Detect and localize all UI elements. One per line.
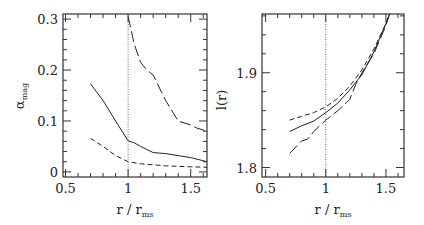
angular-momentum-plot-frame xyxy=(262,14,404,177)
alpha-mag-panel: 0.511.500.10.20.3 r / rms αmag xyxy=(12,12,207,219)
x-tick-label: 0.5 xyxy=(255,181,276,196)
alpha-mag-tick-labels: 0.511.500.10.20.3 xyxy=(37,12,201,196)
x-tick-label: 1.5 xyxy=(180,181,201,196)
x-tick-label: 0.5 xyxy=(55,181,76,196)
y-tick-label: 0.1 xyxy=(37,114,58,129)
y-tick-label: 0.2 xyxy=(37,63,58,78)
alpha-mag-ticks xyxy=(63,14,207,177)
angular-momentum-panel: 0.511.51.81.9 r / rms l(r) xyxy=(214,14,404,219)
curve-solid xyxy=(290,14,390,132)
angular-momentum-y-axis-label: l(r) xyxy=(214,90,229,111)
alpha-mag-x-axis-label: r / rms xyxy=(117,202,154,219)
angular-momentum-ticks xyxy=(262,14,404,177)
figure: 0.511.500.10.20.3 r / rms αmag 0.511.51.… xyxy=(0,0,424,225)
x-tick-label: 1 xyxy=(322,181,330,196)
x-tick-label: 1 xyxy=(124,181,132,196)
alpha-mag-plot-frame xyxy=(63,14,207,177)
alpha-mag-y-axis-label: αmag xyxy=(12,83,29,109)
curve-long-dash xyxy=(290,14,390,153)
curve-short-dash xyxy=(290,14,390,120)
curve-short-dash xyxy=(91,138,208,167)
y-tick-label: 1.9 xyxy=(236,66,257,81)
y-tick-label: 0.3 xyxy=(37,12,58,27)
angular-momentum-x-axis-label: r / rms xyxy=(315,202,352,219)
y-tick-label: 1.8 xyxy=(236,161,257,176)
curve-solid xyxy=(91,84,208,162)
x-tick-label: 1.5 xyxy=(376,181,397,196)
angular-momentum-curves xyxy=(290,14,390,153)
curve-long-dash xyxy=(128,17,207,132)
y-tick-label: 0 xyxy=(50,165,58,180)
alpha-mag-curves xyxy=(91,17,208,168)
